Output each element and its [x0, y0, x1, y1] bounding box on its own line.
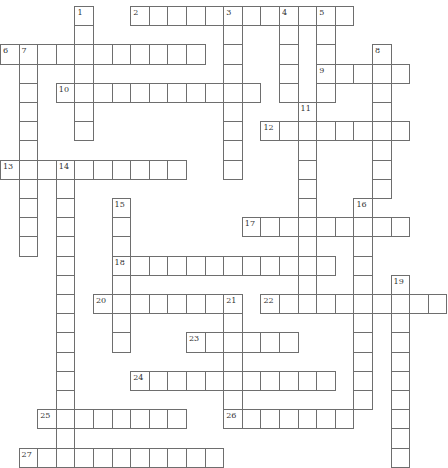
crossword-cell[interactable]	[298, 294, 318, 314]
crossword-cell[interactable]	[279, 121, 299, 141]
crossword-cell[interactable]	[167, 294, 187, 314]
crossword-cell[interactable]	[205, 83, 225, 103]
crossword-cell[interactable]	[186, 83, 206, 103]
crossword-cell[interactable]	[74, 25, 94, 45]
crossword-cell[interactable]	[353, 64, 373, 84]
crossword-cell[interactable]	[372, 179, 392, 199]
crossword-cell[interactable]	[112, 160, 132, 180]
crossword-cell[interactable]	[391, 390, 411, 410]
crossword-cell[interactable]	[186, 6, 206, 26]
crossword-cell[interactable]	[74, 448, 94, 468]
crossword-cell[interactable]	[353, 121, 373, 141]
crossword-cell[interactable]	[112, 332, 132, 352]
crossword-cell[interactable]: 10	[56, 83, 76, 103]
crossword-cell[interactable]	[186, 448, 206, 468]
crossword-cell[interactable]	[93, 44, 113, 64]
crossword-cell[interactable]	[391, 121, 411, 141]
crossword-cell[interactable]	[74, 160, 94, 180]
crossword-cell[interactable]	[149, 160, 169, 180]
crossword-cell[interactable]	[279, 332, 299, 352]
crossword-cell[interactable]: 25	[37, 409, 57, 429]
crossword-cell[interactable]	[74, 44, 94, 64]
crossword-cell[interactable]	[316, 371, 336, 391]
crossword-cell[interactable]	[279, 217, 299, 237]
crossword-cell[interactable]	[316, 25, 336, 45]
crossword-cell[interactable]	[391, 217, 411, 237]
crossword-cell[interactable]	[167, 160, 187, 180]
crossword-cell[interactable]	[298, 198, 318, 218]
crossword-cell[interactable]: 2	[130, 6, 150, 26]
crossword-cell[interactable]	[242, 371, 262, 391]
crossword-cell[interactable]	[391, 313, 411, 333]
crossword-cell[interactable]	[167, 409, 187, 429]
crossword-cell[interactable]	[74, 64, 94, 84]
crossword-cell[interactable]	[260, 217, 280, 237]
crossword-cell[interactable]	[353, 313, 373, 333]
crossword-cell[interactable]	[279, 25, 299, 45]
crossword-cell[interactable]: 7	[19, 44, 39, 64]
crossword-cell[interactable]	[223, 332, 243, 352]
crossword-cell[interactable]	[335, 121, 355, 141]
crossword-cell[interactable]	[353, 352, 373, 372]
crossword-cell[interactable]	[149, 256, 169, 276]
crossword-cell[interactable]	[74, 409, 94, 429]
crossword-cell[interactable]	[298, 256, 318, 276]
crossword-cell[interactable]: 18	[112, 256, 132, 276]
crossword-cell[interactable]	[279, 83, 299, 103]
crossword-cell[interactable]	[74, 83, 94, 103]
crossword-cell[interactable]	[167, 448, 187, 468]
crossword-cell[interactable]	[242, 332, 262, 352]
crossword-cell[interactable]	[260, 371, 280, 391]
crossword-cell[interactable]	[298, 121, 318, 141]
crossword-cell[interactable]	[372, 217, 392, 237]
crossword-cell[interactable]	[93, 409, 113, 429]
crossword-cell[interactable]	[130, 409, 150, 429]
crossword-cell[interactable]	[205, 256, 225, 276]
crossword-cell[interactable]	[186, 256, 206, 276]
crossword-cell[interactable]	[391, 332, 411, 352]
crossword-cell[interactable]	[335, 409, 355, 429]
crossword-cell[interactable]	[316, 44, 336, 64]
crossword-cell[interactable]: 21	[223, 294, 243, 314]
crossword-cell[interactable]	[298, 217, 318, 237]
crossword-cell[interactable]	[372, 160, 392, 180]
crossword-cell[interactable]	[428, 294, 448, 314]
crossword-cell[interactable]	[372, 140, 392, 160]
crossword-cell[interactable]: 4	[279, 6, 299, 26]
crossword-cell[interactable]	[298, 140, 318, 160]
crossword-cell[interactable]	[298, 371, 318, 391]
crossword-cell[interactable]	[56, 294, 76, 314]
crossword-cell[interactable]	[112, 313, 132, 333]
crossword-cell[interactable]	[56, 256, 76, 276]
crossword-cell[interactable]	[260, 332, 280, 352]
crossword-cell[interactable]	[223, 371, 243, 391]
crossword-cell[interactable]	[298, 6, 318, 26]
crossword-cell[interactable]	[112, 217, 132, 237]
crossword-cell[interactable]	[223, 25, 243, 45]
crossword-cell[interactable]	[223, 121, 243, 141]
crossword-cell[interactable]	[130, 83, 150, 103]
crossword-cell[interactable]	[186, 294, 206, 314]
crossword-cell[interactable]	[335, 6, 355, 26]
crossword-cell[interactable]	[74, 121, 94, 141]
crossword-cell[interactable]	[316, 121, 336, 141]
crossword-cell[interactable]	[298, 275, 318, 295]
crossword-cell[interactable]	[391, 371, 411, 391]
crossword-cell[interactable]	[223, 352, 243, 372]
crossword-cell[interactable]	[391, 448, 411, 468]
crossword-cell[interactable]	[372, 83, 392, 103]
crossword-cell[interactable]	[279, 44, 299, 64]
crossword-cell[interactable]	[391, 428, 411, 448]
crossword-cell[interactable]	[149, 409, 169, 429]
crossword-cell[interactable]	[316, 409, 336, 429]
crossword-cell[interactable]	[223, 44, 243, 64]
crossword-cell[interactable]	[353, 256, 373, 276]
crossword-cell[interactable]	[372, 294, 392, 314]
crossword-cell[interactable]: 11	[298, 102, 318, 122]
crossword-cell[interactable]	[242, 409, 262, 429]
crossword-cell[interactable]	[205, 332, 225, 352]
crossword-cell[interactable]	[223, 313, 243, 333]
crossword-cell[interactable]: 26	[223, 409, 243, 429]
crossword-cell[interactable]	[260, 256, 280, 276]
crossword-cell[interactable]	[56, 217, 76, 237]
